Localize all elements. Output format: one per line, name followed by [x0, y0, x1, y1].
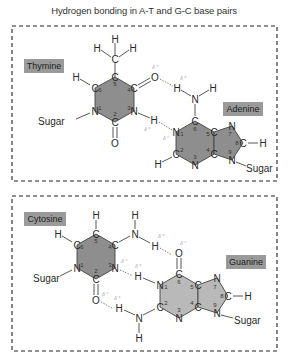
svg-text:H: H: [135, 333, 142, 344]
svg-text:C: C: [191, 116, 198, 127]
svg-text:C: C: [175, 269, 182, 280]
svg-text:H: H: [131, 210, 138, 221]
svg-text:H: H: [173, 83, 180, 94]
svg-text:N: N: [191, 160, 198, 171]
guanine-label: Guanine: [229, 257, 263, 267]
svg-text:H: H: [154, 159, 161, 170]
svg-text:N: N: [111, 263, 118, 274]
adenine-sugar: Sugar: [246, 163, 273, 174]
svg-text:δ⁺: δ⁺: [144, 126, 151, 132]
svg-text:δ⁺: δ⁺: [180, 75, 187, 81]
svg-text:O: O: [151, 72, 159, 83]
svg-text:H: H: [134, 271, 141, 282]
svg-text:N: N: [172, 127, 179, 138]
svg-text:O: O: [111, 138, 119, 149]
svg-text:O: O: [175, 248, 183, 259]
svg-text:H: H: [115, 303, 122, 314]
svg-text:δ⁺: δ⁺: [135, 263, 142, 269]
svg-text:C: C: [156, 302, 163, 313]
svg-text:N: N: [228, 121, 235, 132]
svg-text:N: N: [175, 313, 182, 324]
svg-text:O: O: [92, 295, 100, 306]
svg-text:C: C: [92, 274, 99, 285]
svg-text:H: H: [93, 43, 100, 54]
hbond-5: [101, 302, 112, 308]
svg-text:H: H: [209, 83, 216, 94]
svg-text:H: H: [111, 34, 118, 45]
thymine-sugar: Sugar: [38, 116, 65, 127]
svg-text:C: C: [111, 54, 118, 65]
cytosine-sugar: Sugar: [33, 273, 60, 284]
svg-text:δ⁻: δ⁻: [102, 291, 109, 297]
svg-text:N: N: [130, 106, 137, 117]
guanine-sugar: Sugar: [234, 315, 261, 326]
svg-text:H: H: [150, 115, 157, 126]
svg-text:δ⁻: δ⁻: [180, 240, 187, 246]
svg-text:N: N: [213, 273, 220, 284]
svg-text:δ⁻: δ⁻: [163, 135, 170, 141]
svg-text:δ⁺: δ⁺: [114, 295, 121, 301]
svg-text:δ⁻: δ⁻: [121, 258, 128, 264]
svg-text:N: N: [131, 229, 138, 240]
cytosine-label: Cytosine: [27, 214, 62, 224]
svg-text:C: C: [130, 83, 137, 94]
svg-text:H: H: [54, 229, 61, 240]
svg-text:δ⁺: δ⁺: [158, 233, 165, 239]
hbond-3: [160, 248, 172, 255]
svg-text:C: C: [239, 138, 246, 149]
base-pair-diagram: Thymine C H H H C C C N C N 6 5 4 3 2 1 …: [0, 0, 288, 361]
svg-text:H: H: [72, 72, 79, 83]
hbond-4: [120, 270, 133, 276]
svg-text:H: H: [244, 291, 251, 302]
svg-text:N: N: [213, 308, 220, 319]
svg-text:C: C: [210, 149, 217, 160]
svg-text:N: N: [191, 94, 198, 105]
hbond-1: [160, 79, 173, 86]
svg-text:C: C: [210, 127, 217, 138]
svg-text:C: C: [224, 291, 231, 302]
svg-text:C: C: [172, 149, 179, 160]
adenine-label: Adenine: [226, 104, 259, 114]
svg-text:δ⁻: δ⁻: [152, 64, 159, 70]
svg-text:H: H: [151, 241, 158, 252]
svg-text:C: C: [194, 302, 201, 313]
svg-text:N: N: [156, 280, 163, 291]
svg-text:N: N: [135, 313, 142, 324]
svg-text:C: C: [194, 280, 201, 291]
svg-text:C: C: [111, 117, 118, 128]
thymine-label: Thymine: [27, 61, 62, 71]
svg-text:N: N: [228, 155, 235, 166]
hbond-2: [159, 122, 172, 130]
svg-text:H: H: [129, 43, 136, 54]
svg-text:C: C: [111, 240, 118, 251]
svg-text:H: H: [259, 138, 266, 149]
svg-text:H: H: [92, 210, 99, 221]
